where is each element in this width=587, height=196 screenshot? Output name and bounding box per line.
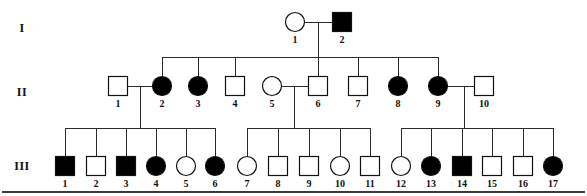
id-label-II-3: 3 <box>196 98 201 109</box>
generation-label-II: II <box>17 85 27 99</box>
individual-III-17-female-affected[interactable] <box>544 157 563 176</box>
id-label-I-2: 2 <box>340 34 345 45</box>
id-label-III-10: 10 <box>335 178 345 189</box>
individual-II-6-male-unaffected[interactable] <box>309 77 328 96</box>
individual-III-6-female-affected[interactable] <box>206 157 225 176</box>
id-label-III-2: 2 <box>94 178 99 189</box>
individual-II-3-female-affected[interactable] <box>189 77 208 96</box>
id-label-III-3: 3 <box>124 178 129 189</box>
individual-III-3-male-affected[interactable] <box>117 157 136 176</box>
individual-II-8-female-affected[interactable] <box>389 77 408 96</box>
individual-II-2-female-affected[interactable] <box>153 77 172 96</box>
id-label-III-17: 17 <box>548 178 558 189</box>
id-label-II-8: 8 <box>396 98 401 109</box>
id-label-III-4: 4 <box>154 178 159 189</box>
individual-I-2-male-affected[interactable] <box>333 13 352 32</box>
individual-I-1-female-unaffected[interactable] <box>286 13 305 32</box>
id-label-III-7: 7 <box>245 178 250 189</box>
pedigree-chart: 12123456789101234567891011121314151617 I… <box>0 0 587 196</box>
id-label-II-1: 1 <box>116 98 121 109</box>
individual-III-13-female-affected[interactable] <box>422 157 441 176</box>
id-label-III-6: 6 <box>213 178 218 189</box>
id-label-II-2: 2 <box>160 98 165 109</box>
generation-label-III: III <box>14 159 30 173</box>
individual-III-2-male-unaffected[interactable] <box>87 157 106 176</box>
individual-II-7-male-unaffected[interactable] <box>349 77 368 96</box>
individual-III-1-male-affected[interactable] <box>56 157 75 176</box>
individual-II-5-female-unaffected[interactable] <box>263 77 282 96</box>
id-label-III-16: 16 <box>518 178 528 189</box>
individual-II-10-male-unaffected[interactable] <box>475 77 494 96</box>
id-label-II-9: 9 <box>436 98 441 109</box>
id-label-II-10: 10 <box>479 98 489 109</box>
individual-III-14-male-affected[interactable] <box>453 157 472 176</box>
id-label-III-1: 1 <box>63 178 68 189</box>
id-label-III-9: 9 <box>307 178 312 189</box>
individual-II-4-male-unaffected[interactable] <box>226 77 245 96</box>
individual-II-1-male-unaffected[interactable] <box>109 77 128 96</box>
generation-label-I: I <box>19 21 24 35</box>
id-label-III-14: 14 <box>457 178 467 189</box>
individual-III-8-male-unaffected[interactable] <box>269 157 288 176</box>
individual-III-16-male-unaffected[interactable] <box>514 157 533 176</box>
id-label-II-5: 5 <box>270 98 275 109</box>
individual-II-9-female-affected[interactable] <box>429 77 448 96</box>
individual-III-10-female-unaffected[interactable] <box>331 157 350 176</box>
individual-III-9-male-unaffected[interactable] <box>300 157 319 176</box>
generation-labels-layer: IIIIII <box>14 21 30 173</box>
id-label-III-15: 15 <box>487 178 497 189</box>
pedigree-figure: 12123456789101234567891011121314151617 I… <box>0 0 587 196</box>
id-label-III-8: 8 <box>276 178 281 189</box>
id-label-II-6: 6 <box>316 98 321 109</box>
id-label-III-12: 12 <box>396 178 406 189</box>
individual-III-5-female-unaffected[interactable] <box>177 157 196 176</box>
id-label-III-11: 11 <box>365 178 374 189</box>
id-label-I-1: 1 <box>293 34 298 45</box>
individual-III-4-female-affected[interactable] <box>147 157 166 176</box>
individual-III-7-female-unaffected[interactable] <box>238 157 257 176</box>
individual-III-11-male-unaffected[interactable] <box>361 157 380 176</box>
id-label-II-4: 4 <box>233 98 238 109</box>
id-label-II-7: 7 <box>356 98 361 109</box>
individual-III-15-male-unaffected[interactable] <box>483 157 502 176</box>
individual-III-12-female-unaffected[interactable] <box>392 157 411 176</box>
id-label-III-5: 5 <box>184 178 189 189</box>
id-label-III-13: 13 <box>426 178 436 189</box>
